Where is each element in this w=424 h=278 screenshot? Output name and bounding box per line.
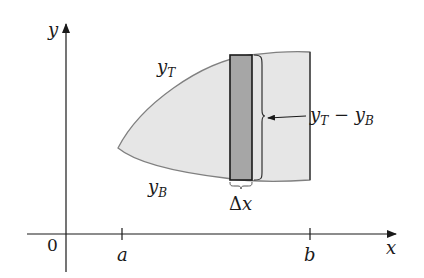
origin-label: 0 [47, 235, 58, 255]
width-label: Δx [229, 193, 252, 214]
tick-b-label: b [304, 244, 316, 265]
width-brace [230, 182, 252, 189]
tick-a-label: a [117, 244, 128, 265]
height-label: yT − yB [309, 104, 374, 128]
x-axis-label: x [386, 237, 396, 258]
y-axis-label: y [47, 19, 59, 40]
representative-strip [230, 55, 252, 180]
area-between-curves-diagram: y x 0 a b yT yB yT − yB Δx [0, 0, 424, 278]
bottom-curve-label: yB [147, 176, 167, 200]
top-curve-label: yT [156, 56, 176, 80]
shaded-region [118, 52, 310, 182]
